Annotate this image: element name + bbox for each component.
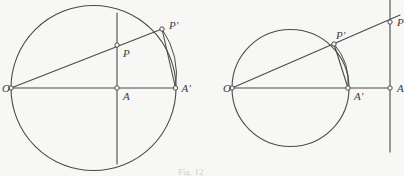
point-label-O: O [223,83,231,94]
point-label-Aprime: A' [182,83,191,94]
point-node-P [388,20,392,24]
point-node-A [388,86,392,90]
point-label-Aprime: A' [354,91,363,102]
geometry-canvas [0,0,404,176]
point-node-Pprime [332,42,336,46]
figure-container: OAA'PP'OA'AP'P Fig. 12 [0,0,404,176]
ray-O-through-Pprime [11,29,162,88]
point-node-A [115,86,119,90]
chord-Pprime-Aprime [162,29,176,88]
figure-caption: Fig. 12 [178,168,204,176]
ray-O-through-P [232,15,400,88]
point-label-Pprime: P' [169,20,178,31]
point-label-Pprime: P' [336,30,345,41]
point-node-Aprime [173,86,177,90]
point-node-Pprime [160,27,164,31]
point-node-P [115,43,119,47]
circle-inversion-diagram-left [9,6,178,171]
point-label-P: P [397,17,404,28]
point-node-Aprime [346,86,350,90]
point-label-A: A [397,83,404,94]
point-label-O: O [2,83,10,94]
point-label-A: A [123,91,130,102]
point-label-P: P [123,48,130,59]
circle-inversion-diagram-right [230,0,400,152]
